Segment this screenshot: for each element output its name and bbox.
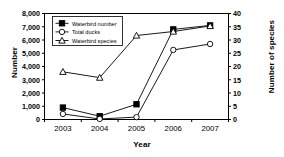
data-point-marker	[60, 111, 65, 116]
y-axis-tick-label-right: 15	[233, 76, 241, 85]
data-point-marker	[59, 29, 64, 34]
legend-item: Waterbird number	[56, 21, 117, 27]
x-axis-tick-label: 2005	[128, 124, 146, 133]
y-axis-tick-label-right: 25	[233, 49, 241, 58]
data-point-marker	[171, 47, 176, 52]
y-axis-tick-label-left: 6,000	[22, 36, 40, 45]
data-point-marker	[134, 102, 139, 107]
y-axis-tick-label-right: 10	[233, 89, 241, 98]
legend-label: Waterbird species	[72, 38, 117, 44]
y-axis-tick-label-right: 40	[233, 9, 241, 18]
x-axis-tick-label: 2003	[54, 124, 71, 133]
series-line	[63, 44, 210, 119]
y-axis-tick-label-left: 5,000	[22, 49, 40, 58]
y-axis-tick-label-left: 0	[36, 115, 40, 124]
data-point-marker	[97, 116, 102, 121]
y-axis-tick-label-right: 0	[233, 115, 237, 124]
y-axis-title-right: Number of species	[267, 14, 276, 100]
y-axis-tick-label-left: 7,000	[22, 23, 40, 32]
y-axis-tick-label-right: 35	[233, 23, 241, 32]
chart-container: 01,0002,0003,0004,0005,0006,0007,0008,00…	[0, 0, 284, 157]
data-point-marker	[60, 105, 65, 110]
x-axis-tick-label: 2007	[201, 124, 218, 133]
y-axis-tick-label-right: 5	[233, 102, 237, 111]
x-axis-tick-label: 2004	[91, 124, 109, 133]
y-axis-tick-label-left: 2,000	[22, 89, 40, 98]
x-axis-title: Year	[0, 140, 284, 149]
legend-label: Waterbird number	[72, 21, 117, 27]
chart-series	[60, 41, 213, 121]
y-axis-title-left: Number	[10, 33, 19, 93]
data-point-marker	[207, 41, 212, 46]
data-point-marker	[134, 114, 139, 119]
chart-plot-area: 01,0002,0003,0004,0005,0006,0007,0008,00…	[0, 0, 284, 157]
data-point-marker	[59, 21, 64, 26]
y-axis-tick-label-left: 8,000	[22, 9, 40, 18]
y-axis-tick-label-left: 4,000	[22, 62, 40, 71]
x-axis-tick-label: 2006	[165, 124, 182, 133]
data-point-marker	[60, 69, 66, 75]
legend-label: Total ducks	[72, 29, 100, 35]
chart-legend: Waterbird numberTotal ducksWaterbird spe…	[53, 17, 123, 46]
y-axis-tick-label-right: 20	[233, 62, 241, 71]
y-axis-tick-label-left: 3,000	[22, 76, 40, 85]
y-axis-tick-label-left: 1,000	[22, 102, 40, 111]
legend-item: Total ducks	[56, 29, 101, 35]
y-axis-tick-label-right: 30	[233, 36, 241, 45]
